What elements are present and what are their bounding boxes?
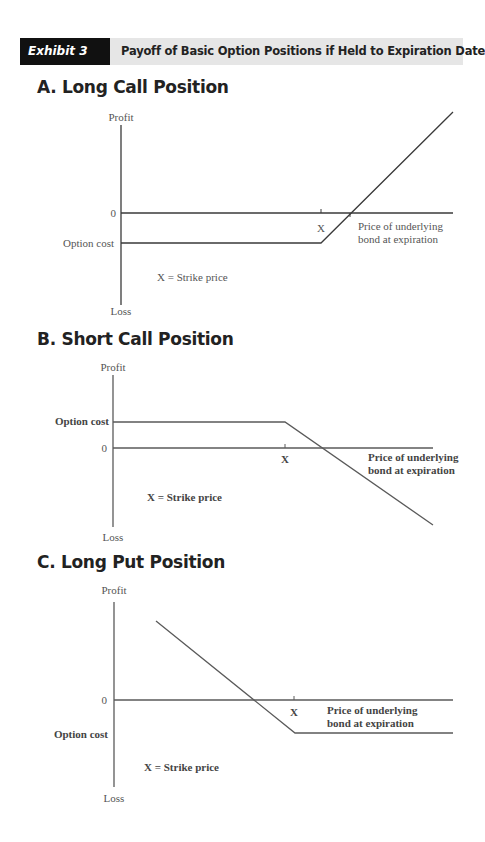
strike-note: X = Strike price <box>144 761 219 773</box>
y-label-loss: Loss <box>104 792 125 804</box>
zero-label: 0 <box>102 442 108 454</box>
x-label-line2: bond at expiration <box>368 464 455 476</box>
chart-long-call: Profit 0 Option cost X = Strike price Lo… <box>63 111 453 317</box>
zero-label: 0 <box>102 694 108 706</box>
option-cost-label: Option cost <box>55 415 109 427</box>
chart-long-put: Profit 0 Option cost X = Strike price Lo… <box>54 584 453 804</box>
option-cost-label: Option cost <box>54 728 108 740</box>
x-label-line1: Price of underlying <box>327 704 418 716</box>
strike-label: X <box>317 222 325 234</box>
strike-label: X <box>290 706 298 718</box>
x-label-line2: bond at expiration <box>327 717 414 729</box>
chart-short-call: Profit Option cost 0 X = Strike price Lo… <box>55 361 459 543</box>
y-label-loss: Loss <box>103 531 124 543</box>
x-label-line2: bond at expiration <box>358 233 439 245</box>
y-label-loss: Loss <box>111 305 132 317</box>
x-label-line1: Price of underlying <box>368 451 459 463</box>
x-label-line1: Price of underlying <box>358 220 443 232</box>
strike-note: X = Strike price <box>157 271 228 283</box>
strike-label: X <box>281 453 289 465</box>
y-label-profit: Profit <box>108 111 133 123</box>
strike-note: X = Strike price <box>147 491 222 503</box>
y-label-profit: Profit <box>100 361 125 373</box>
y-label-profit: Profit <box>101 584 126 596</box>
zero-label: 0 <box>111 207 117 219</box>
option-cost-label: Option cost <box>63 237 114 249</box>
